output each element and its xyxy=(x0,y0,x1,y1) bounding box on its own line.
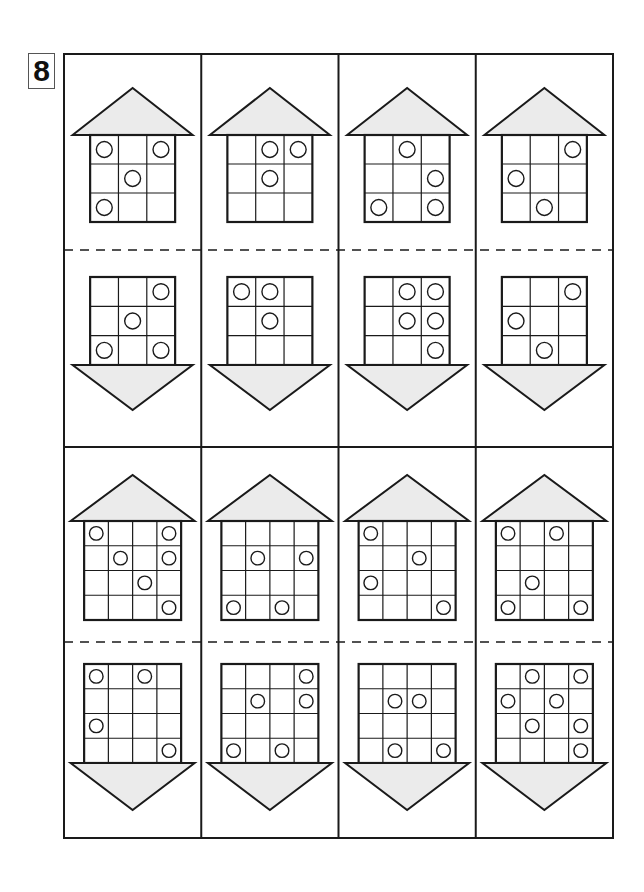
house-grid-border xyxy=(365,135,450,222)
arrow-grid xyxy=(359,664,456,763)
arrow-head xyxy=(208,763,332,810)
house-grid xyxy=(227,135,312,222)
house-roof xyxy=(345,475,469,521)
house-roof xyxy=(347,88,467,135)
card-1-3 xyxy=(347,88,467,410)
arrow-head xyxy=(345,763,469,810)
arrow-head xyxy=(71,763,195,810)
arrow-grid-border xyxy=(90,277,175,365)
arrow-head xyxy=(482,763,606,810)
arrow-grid xyxy=(365,277,450,365)
arrow-grid xyxy=(502,277,587,365)
house-roof xyxy=(210,88,330,135)
house-grid xyxy=(502,135,587,222)
house-grid xyxy=(365,135,450,222)
arrow-head xyxy=(73,365,193,410)
arrow-head xyxy=(347,365,467,410)
card-1-4 xyxy=(484,88,604,410)
house-roof xyxy=(73,88,193,135)
card-1-2 xyxy=(210,88,330,410)
arrow-head xyxy=(484,365,604,410)
house-grid xyxy=(221,521,318,620)
house-grid xyxy=(496,521,593,620)
house-grid xyxy=(359,521,456,620)
arrow-head xyxy=(210,365,330,410)
house-roof xyxy=(71,475,195,521)
arrow-grid-border xyxy=(227,277,312,365)
arrow-grid-border xyxy=(365,277,450,365)
house-grid-border xyxy=(90,135,175,222)
house-roof xyxy=(484,88,604,135)
house-grid xyxy=(84,521,181,620)
arrow-grid xyxy=(227,277,312,365)
arrow-grid-border xyxy=(502,277,587,365)
arrow-grid xyxy=(221,664,318,763)
worksheet xyxy=(0,0,644,892)
arrow-grid xyxy=(496,664,593,763)
house-grid-border xyxy=(502,135,587,222)
arrow-grid xyxy=(90,277,175,365)
house-roof xyxy=(208,475,332,521)
house-roof xyxy=(482,475,606,521)
arrow-grid xyxy=(84,664,181,763)
house-grid xyxy=(90,135,175,222)
card-1-1 xyxy=(73,88,193,410)
house-grid-border xyxy=(227,135,312,222)
